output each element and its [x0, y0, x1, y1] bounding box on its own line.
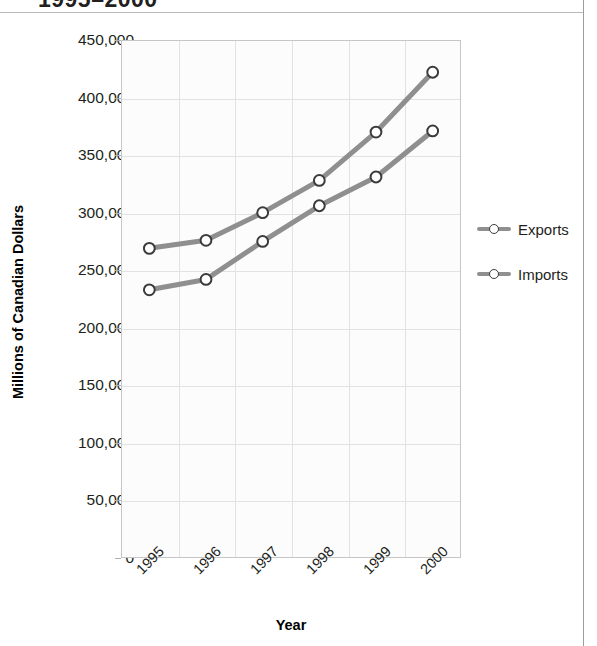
x-axis-tick-mark: [319, 558, 320, 564]
data-point-marker: [371, 127, 382, 138]
data-point-marker: [144, 243, 155, 254]
data-point-marker: [201, 274, 212, 285]
chart-page: 1995–2000 Millions of Canadian Dollars 4…: [0, 0, 597, 646]
x-axis-tick-mark: [206, 558, 207, 564]
data-point-marker: [314, 175, 325, 186]
chart-legend: ExportsImports: [477, 218, 587, 308]
y-axis-tick-mark: [115, 558, 121, 559]
chart-title: 1995–2000: [38, 0, 338, 12]
data-point-marker: [257, 207, 268, 218]
series-line-imports: [149, 131, 432, 290]
data-point-marker: [427, 67, 438, 78]
legend-marker-icon: [477, 222, 511, 236]
x-axis-title: Year: [121, 617, 461, 633]
page-right-rule: [583, 0, 584, 646]
legend-label: Exports: [518, 221, 569, 238]
data-series-layer: [121, 40, 461, 558]
y-axis-title: Millions of Canadian Dollars: [10, 142, 26, 462]
page-top-rule: [0, 12, 583, 13]
data-point-marker: [427, 126, 438, 137]
x-axis-tick-mark: [149, 558, 150, 564]
data-point-marker: [257, 236, 268, 247]
data-point-marker: [314, 200, 325, 211]
data-point-marker: [201, 235, 212, 246]
x-axis-tick-mark: [263, 558, 264, 564]
data-point-marker: [144, 284, 155, 295]
data-point-marker: [371, 172, 382, 183]
legend-marker-icon: [477, 267, 511, 281]
legend-item-imports[interactable]: Imports: [477, 263, 587, 285]
x-axis-tick-mark: [376, 558, 377, 564]
x-axis-tick-mark: [433, 558, 434, 564]
legend-item-exports[interactable]: Exports: [477, 218, 587, 240]
legend-label: Imports: [518, 266, 568, 283]
